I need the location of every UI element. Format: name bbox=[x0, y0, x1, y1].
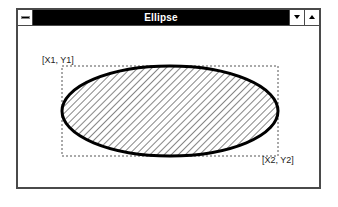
hatched-ellipse bbox=[62, 66, 278, 156]
label-x1-y1: [X1, Y1] bbox=[42, 55, 74, 65]
label-x2-y2: [X2, Y2] bbox=[262, 155, 294, 165]
ellipse-drawing bbox=[0, 0, 338, 207]
